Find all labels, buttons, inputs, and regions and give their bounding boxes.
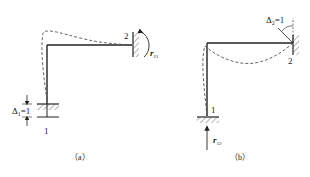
r21-label: r21 xyxy=(150,48,159,59)
deflected-shape-a xyxy=(42,31,132,100)
caption-b: （b） xyxy=(230,153,250,162)
node1-label-b: 1 xyxy=(211,105,216,115)
figure-b: 1 r12 2 Δ2=1 （b） xyxy=(197,15,299,162)
support-node2-a xyxy=(133,32,139,57)
node2-label-b: 2 xyxy=(288,56,293,66)
delta2-label: Δ2=1 xyxy=(266,15,284,26)
figure-a: Δ1=1 1 2 r21 （a） xyxy=(12,31,159,162)
moment-arrow-r21 xyxy=(141,32,149,57)
delta1-label: Δ1=1 xyxy=(12,106,30,117)
displacement-indicator-a: Δ1=1 xyxy=(12,95,32,126)
support-node1-a xyxy=(37,104,59,117)
support-node2-b xyxy=(293,35,299,55)
rotation-indicator-b: Δ2=1 xyxy=(266,15,293,43)
support-node1-b xyxy=(197,117,219,123)
structural-diagram: Δ1=1 1 2 r21 （a） 1 r12 xyxy=(0,0,310,177)
deflected-shape-b xyxy=(203,43,293,116)
node1-label-a: 1 xyxy=(44,126,49,136)
node2-label-a: 2 xyxy=(124,31,129,41)
caption-a: （a） xyxy=(70,153,90,162)
r12-label: r12 xyxy=(213,135,222,146)
